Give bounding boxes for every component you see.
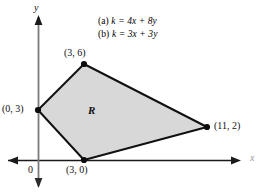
- objective-b-k: k: [112, 29, 116, 39]
- objective-function-list: (a) k = 4x + 8y (b) k = 3x + 3y: [98, 16, 157, 42]
- y-axis: [35, 15, 43, 188]
- x-axis-label: x: [250, 153, 254, 163]
- vertex-label-3-6: (3, 6): [64, 48, 86, 58]
- feasible-region-polygon: [38, 64, 207, 160]
- y-axis-label: y: [34, 3, 38, 13]
- objective-a-k: k: [111, 16, 115, 26]
- linear-programming-figure: y x 0 (0, 3) (3, 6) (11, 2) (3, 0) R (a)…: [0, 0, 259, 192]
- origin-label: 0: [28, 165, 33, 175]
- vertex-label-0-3: (0, 3): [2, 104, 24, 114]
- vertex-dot-11-2: [204, 124, 210, 130]
- objective-function-a: (a) k = 4x + 8y: [98, 16, 157, 26]
- vertex-dot-0-3: [35, 107, 41, 113]
- objective-b-expression: = 3x + 3y: [119, 29, 158, 39]
- objective-a-expression: = 4x + 8y: [118, 16, 157, 26]
- vertex-label-11-2: (11, 2): [214, 121, 240, 131]
- region-label-R: R: [88, 105, 95, 116]
- vertex-label-3-0: (3, 0): [66, 165, 88, 175]
- x-axis: [8, 157, 241, 165]
- vertex-dot-3-6: [81, 61, 87, 67]
- objective-b-tag: (b): [98, 29, 109, 39]
- vertex-dot-3-0: [81, 157, 87, 163]
- objective-function-b: (b) k = 3x + 3y: [98, 29, 157, 39]
- objective-a-tag: (a): [98, 16, 109, 26]
